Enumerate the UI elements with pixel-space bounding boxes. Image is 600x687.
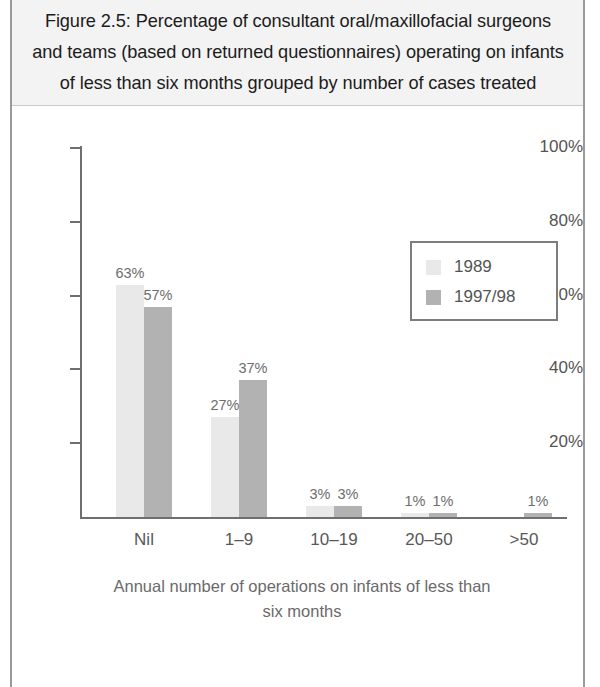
- bar-value-label: 1%: [420, 493, 466, 509]
- bar-value-label: 37%: [230, 360, 276, 376]
- x-axis-category-label: 20–50: [383, 530, 475, 550]
- x-axis-title: Annual number of operations on infants o…: [52, 574, 552, 624]
- x-axis-category-label: 10–19: [288, 530, 380, 550]
- x-axis-category-label: Nil: [98, 530, 190, 550]
- chart-legend: 1989 1997/98: [410, 241, 558, 321]
- bar-1989: [211, 417, 239, 517]
- figure-container: Figure 2.5: Percentage of consultant ora…: [0, 0, 600, 687]
- bar-1997-98: [239, 380, 267, 517]
- bar-1989: [306, 506, 334, 517]
- bar-value-label: 63%: [107, 265, 153, 281]
- figure-caption-band: Figure 2.5: Percentage of consultant ora…: [12, 0, 583, 106]
- bar-1997-98: [524, 513, 552, 517]
- bar-1997-98: [144, 307, 172, 517]
- bar-1997-98: [429, 513, 457, 517]
- legend-swatch-1989: [426, 260, 441, 275]
- bar-value-label: 1%: [515, 493, 561, 509]
- chart-plot-area: 20%40%60%80%100% 63%57%27%37%3%3%1%1%1% …: [12, 106, 583, 687]
- x-axis-title-line2: six months: [263, 602, 342, 620]
- bar-1989: [401, 513, 429, 517]
- figure-caption: Figure 2.5: Percentage of consultant ora…: [28, 6, 568, 99]
- x-axis-category-label: 1–9: [193, 530, 285, 550]
- bar-value-label: 3%: [325, 486, 371, 502]
- legend-label-1989: 1989: [454, 257, 492, 277]
- legend-swatch-1997-98: [426, 290, 441, 305]
- bar-1997-98: [334, 506, 362, 517]
- bar-value-label: 57%: [135, 287, 181, 303]
- x-axis-title-line1: Annual number of operations on infants o…: [114, 577, 491, 595]
- x-axis-category-label: >50: [478, 530, 570, 550]
- legend-label-1997-98: 1997/98: [454, 287, 515, 307]
- bar-1989: [116, 285, 144, 517]
- page-rule-right: [583, 0, 585, 687]
